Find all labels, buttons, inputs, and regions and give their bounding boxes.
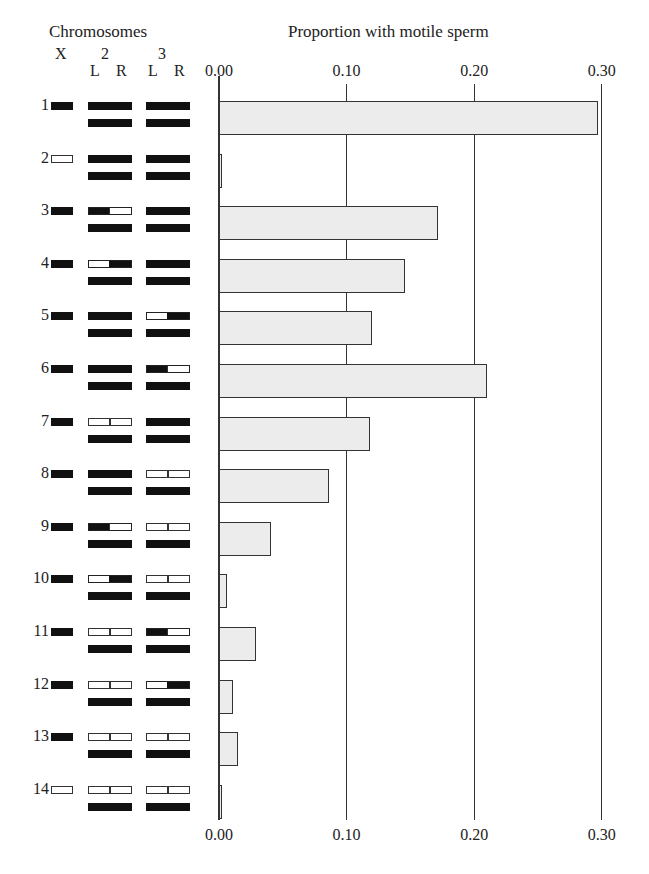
centromere-divider <box>167 786 168 794</box>
bar <box>219 311 372 345</box>
centromere-divider <box>167 575 168 583</box>
chromosome-2 <box>88 365 132 373</box>
top-tick-label: 0.20 <box>460 62 488 80</box>
top-tick-label: 0.10 <box>333 62 361 80</box>
chromosome-3-homolog <box>146 698 190 706</box>
chromosome-2-outline <box>88 575 132 583</box>
chromosome-2-homolog <box>88 487 132 495</box>
chromosome-3-outline <box>146 681 190 689</box>
bar <box>219 364 487 398</box>
chromosome-3-outline <box>146 312 190 320</box>
chromosome-3-outline <box>146 365 190 373</box>
bar <box>219 522 271 556</box>
chromosome-3-homolog <box>146 224 190 232</box>
chromosome-x <box>51 628 73 636</box>
chromosomes-title: Chromosomes <box>49 22 147 42</box>
chromosome-2-homolog <box>88 382 132 390</box>
chromosome-3-homolog <box>146 329 190 337</box>
chromosome-2-homolog <box>88 698 132 706</box>
chromosome-3 <box>146 102 190 110</box>
centromere-divider <box>167 733 168 741</box>
chromosome-2-outline <box>88 260 132 268</box>
arm-3l-header: L <box>148 62 158 80</box>
row-label: 12 <box>19 675 49 693</box>
gridline <box>346 84 347 820</box>
chromosome-3-homolog <box>146 382 190 390</box>
chromosome-x <box>51 733 73 741</box>
row-label: 1 <box>19 96 49 114</box>
bar <box>219 101 598 135</box>
arm-2r-header: R <box>116 62 127 80</box>
chromosome-x <box>51 786 73 794</box>
bar <box>219 785 222 819</box>
bottom-tick-label: 0.00 <box>205 826 233 844</box>
chr-x-header: X <box>55 45 67 63</box>
chromosome-2-outline <box>88 523 132 531</box>
chromosome-3 <box>146 155 190 163</box>
chromosome-3 <box>146 260 190 268</box>
chromosome-2-homolog <box>88 329 132 337</box>
arm-3r-header: R <box>174 62 185 80</box>
chromosome-2-homolog <box>88 592 132 600</box>
centromere-divider <box>167 470 168 478</box>
chromosome-3-homolog <box>146 119 190 127</box>
chromosome-3-homolog <box>146 750 190 758</box>
bottom-tick-label: 0.30 <box>588 826 616 844</box>
chromosome-2-homolog <box>88 750 132 758</box>
row-label: 10 <box>19 569 49 587</box>
chromosome-2-homolog <box>88 540 132 548</box>
bar <box>219 259 405 293</box>
chromosome-3-homolog <box>146 487 190 495</box>
bottom-tick-label: 0.10 <box>333 826 361 844</box>
centromere-divider <box>109 628 110 636</box>
bar <box>219 206 438 240</box>
chromosome-3-outline <box>146 628 190 636</box>
gridline <box>601 84 602 820</box>
chromosome-3-homolog <box>146 540 190 548</box>
chr-3-header: 3 <box>158 45 166 63</box>
chromosome-2 <box>88 155 132 163</box>
chromosome-2-homolog <box>88 435 132 443</box>
chromosome-3-homolog <box>146 172 190 180</box>
chromosome-2 <box>88 312 132 320</box>
chromosome-x <box>51 470 73 478</box>
arm-2l-header: L <box>90 62 100 80</box>
chromosome-2-outline <box>88 207 132 215</box>
chromosome-x <box>51 365 73 373</box>
bar <box>219 469 329 503</box>
row-label: 14 <box>19 780 49 798</box>
chromosome-3-homolog <box>146 645 190 653</box>
centromere-divider <box>167 523 168 531</box>
chromosome-3-homolog <box>146 803 190 811</box>
bottom-tick-label: 0.20 <box>460 826 488 844</box>
bar <box>219 732 238 766</box>
chromosome-2-homolog <box>88 119 132 127</box>
centromere-divider <box>109 786 110 794</box>
chromosome-3-homolog <box>146 435 190 443</box>
chromosome-3 <box>146 207 190 215</box>
chromosome-2-homolog <box>88 224 132 232</box>
chromosome-x <box>51 418 73 426</box>
chromosome-2 <box>88 470 132 478</box>
bar <box>219 680 233 714</box>
top-tick-label: 0.30 <box>588 62 616 80</box>
chromosome-3-homolog <box>146 592 190 600</box>
chr-2-header: 2 <box>101 45 109 63</box>
chromosome-x <box>51 207 73 215</box>
chromosome-x <box>51 260 73 268</box>
bar <box>219 154 222 188</box>
centromere-divider <box>109 418 110 426</box>
row-label: 11 <box>19 622 49 640</box>
row-label: 4 <box>19 254 49 272</box>
chromosome-3 <box>146 418 190 426</box>
chromosome-x <box>51 312 73 320</box>
row-label: 5 <box>19 306 49 324</box>
row-label: 2 <box>19 149 49 167</box>
centromere-divider <box>109 681 110 689</box>
row-label: 13 <box>19 727 49 745</box>
centromere-divider <box>109 733 110 741</box>
row-label: 6 <box>19 359 49 377</box>
gridline <box>474 84 475 820</box>
bar <box>219 417 370 451</box>
chromosome-x <box>51 102 73 110</box>
